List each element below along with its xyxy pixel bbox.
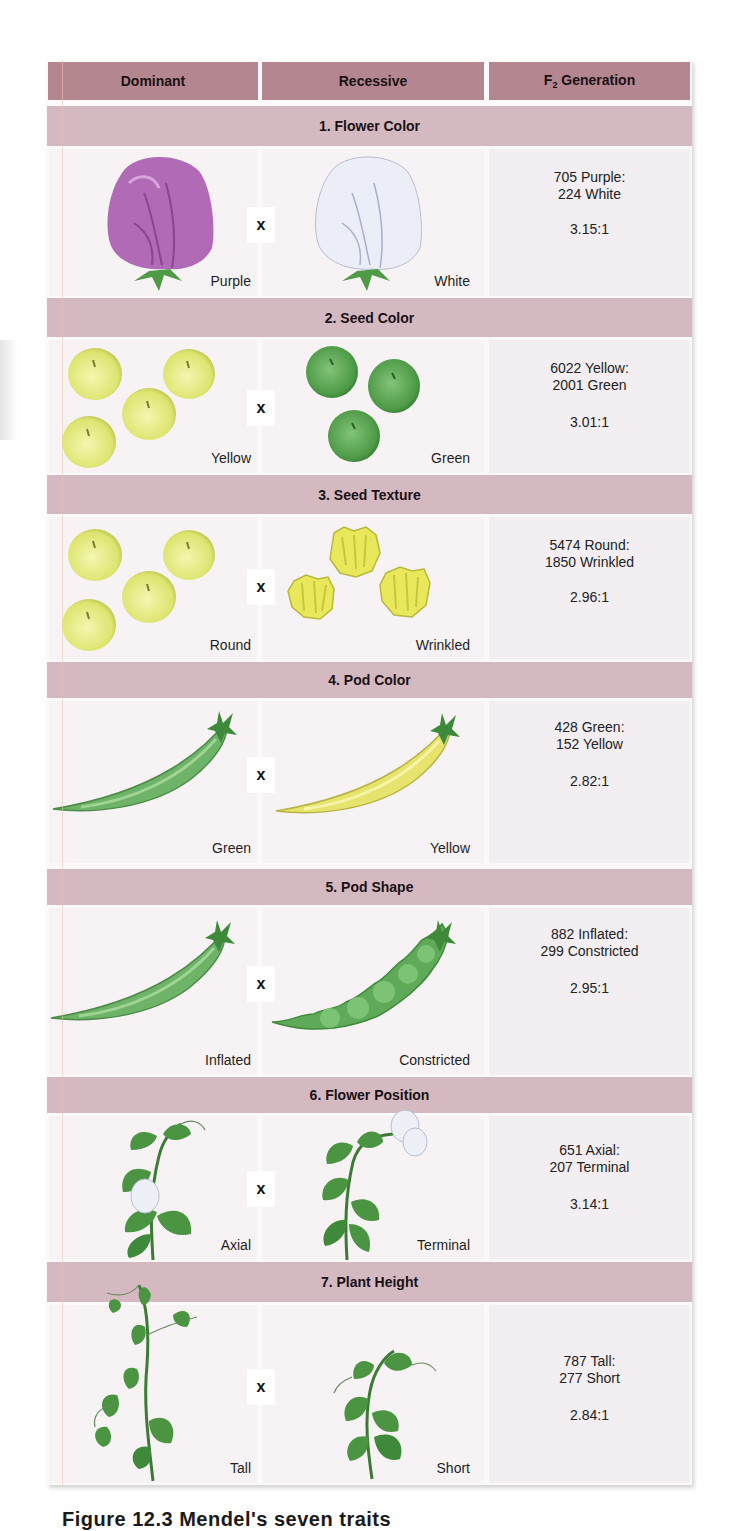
dominant-cell: Inflated: [49, 908, 257, 1075]
section-title-seed-texture: 3. Seed Texture: [47, 475, 692, 514]
dominant-cell: Tall: [49, 1305, 257, 1483]
f2-cell: 705 Purple: 224 White 3.15:1: [489, 149, 690, 296]
yellow-pod-illustration: [274, 711, 464, 826]
recessive-cell: Terminal: [262, 1116, 484, 1260]
f2-counts: 6022 Yellow: 2001 Green: [489, 360, 690, 394]
dominant-cell: Purple: [49, 149, 257, 296]
f2-recessive-count: 277 Short: [489, 1370, 690, 1387]
cross-symbol: x: [247, 569, 275, 605]
trait-row-seed-texture: Round x Wrinkled 5474 Round: 1850 Wrinkl…: [47, 517, 692, 660]
section-title-text: 3. Seed Texture: [318, 487, 420, 503]
f2-counts: 5474 Round: 1850 Wrinkled: [489, 537, 690, 571]
wrinkled-seeds-illustration: [284, 523, 434, 643]
cross-symbol: x: [247, 966, 275, 1002]
recessive-cell: Short: [262, 1305, 484, 1483]
trait-row-flower-position: Axial x Terminal 651 Axial: 207 Terminal: [47, 1116, 692, 1260]
f2-dominant-count: 787 Tall:: [489, 1353, 690, 1370]
green-pod-illustration: [51, 709, 241, 824]
f2-ratio: 2.95:1: [489, 980, 690, 996]
cross-symbol: x: [247, 1369, 275, 1405]
f2-recessive-count: 152 Yellow: [489, 736, 690, 753]
constricted-pod-illustration: [270, 918, 465, 1038]
column-header-f2-generation: F2 Generation: [489, 62, 690, 100]
recessive-label: Green: [431, 450, 470, 466]
f2-recessive-count: 1850 Wrinkled: [489, 554, 690, 571]
f2-ratio: 3.15:1: [489, 221, 690, 237]
cross-symbol: x: [247, 1171, 275, 1207]
dominant-label: Yellow: [211, 450, 251, 466]
f2-dominant-count: 5474 Round:: [489, 537, 690, 554]
cross-symbol: x: [247, 207, 275, 243]
column-header-label: Dominant: [121, 73, 186, 89]
f2-ratio: 2.82:1: [489, 773, 690, 789]
f2-cell: 6022 Yellow: 2001 Green 3.01:1: [489, 340, 690, 473]
section-title-text: 5. Pod Shape: [326, 879, 414, 895]
f2-recessive-count: 207 Terminal: [489, 1159, 690, 1176]
f2-cell: 882 Inflated: 299 Constricted 2.95:1: [489, 908, 690, 1075]
dominant-label: Axial: [221, 1237, 251, 1253]
short-plant-illustration: [322, 1341, 442, 1481]
recessive-label: White: [434, 273, 470, 289]
recessive-cell: White: [262, 149, 484, 296]
trait-row-plant-height: Tall x Short 787 Tall: 277 Short 2.84:1: [47, 1305, 692, 1483]
green-seeds-illustration: [302, 344, 432, 469]
recessive-label: Wrinkled: [416, 637, 470, 653]
dominant-label: Inflated: [205, 1052, 251, 1068]
f2-dominant-count: 882 Inflated:: [489, 926, 690, 943]
recessive-cell: Green: [262, 340, 484, 473]
section-title-text: 4. Pod Color: [328, 672, 410, 688]
recessive-label: Short: [437, 1460, 470, 1476]
section-title-text: 6. Flower Position: [310, 1087, 430, 1103]
f2-ratio: 3.14:1: [489, 1196, 690, 1212]
f2-counts: 705 Purple: 224 White: [489, 169, 690, 203]
dominant-label: Green: [212, 840, 251, 856]
f2-counts: 428 Green: 152 Yellow: [489, 719, 690, 753]
dominant-cell: Round: [49, 517, 257, 660]
f2-counts: 787 Tall: 277 Short: [489, 1353, 690, 1387]
section-title-pod-color: 4. Pod Color: [47, 662, 692, 698]
column-header-label: F2 Generation: [544, 72, 635, 90]
f2-dominant-count: 651 Axial:: [489, 1142, 690, 1159]
f2-counts: 651 Axial: 207 Terminal: [489, 1142, 690, 1176]
section-title-flower-color: 1. Flower Color: [47, 106, 692, 146]
f2-ratio: 2.84:1: [489, 1407, 690, 1423]
section-title-text: 2. Seed Color: [325, 310, 414, 326]
round-seeds-illustration: [57, 525, 227, 655]
yellow-seeds-illustration: [57, 344, 227, 469]
section-title-seed-color: 2. Seed Color: [47, 298, 692, 337]
trait-row-pod-color: Green x Yellow 428 Green: 152 Yellow 2.8…: [47, 701, 692, 863]
f2-cell: 428 Green: 152 Yellow 2.82:1: [489, 701, 690, 863]
tall-plant-illustration: [77, 1275, 217, 1483]
f2-dominant-count: 705 Purple:: [489, 169, 690, 186]
f2-dominant-count: 6022 Yellow:: [489, 360, 690, 377]
white-flower-illustration: [312, 153, 427, 293]
f2-ratio: 2.96:1: [489, 589, 690, 605]
section-title-pod-shape: 5. Pod Shape: [47, 869, 692, 905]
f2-recessive-count: 299 Constricted: [489, 943, 690, 960]
f2-ratio: 3.01:1: [489, 414, 690, 430]
mendel-traits-table: Dominant Recessive F2 Generation 1. Flow…: [47, 60, 692, 1485]
cross-symbol: x: [247, 390, 275, 426]
f2-cell: 651 Axial: 207 Terminal 3.14:1: [489, 1116, 690, 1260]
dominant-cell: Axial: [49, 1116, 257, 1260]
table-edge-line: [62, 60, 63, 1485]
recessive-label: Constricted: [399, 1052, 470, 1068]
recessive-cell: Wrinkled: [262, 517, 484, 660]
f2-recessive-count: 2001 Green: [489, 377, 690, 394]
trait-row-flower-color: Purple x White 705 Purple: 224 White 3.1…: [47, 149, 692, 296]
purple-flower-illustration: [104, 153, 219, 293]
column-header-recessive: Recessive: [262, 62, 484, 100]
recessive-cell: Constricted: [262, 908, 484, 1075]
column-header-dominant: Dominant: [48, 62, 258, 100]
dominant-cell: Green: [49, 701, 257, 863]
cross-symbol: x: [247, 757, 275, 793]
dominant-cell: Yellow: [49, 340, 257, 473]
page-shadow: [0, 340, 18, 440]
recessive-label: Yellow: [430, 840, 470, 856]
dominant-label: Tall: [230, 1460, 251, 1476]
f2-dominant-count: 428 Green:: [489, 719, 690, 736]
dominant-label: Round: [210, 637, 251, 653]
axial-flower-plant-illustration: [101, 1116, 211, 1261]
f2-cell: 787 Tall: 277 Short 2.84:1: [489, 1305, 690, 1483]
section-title-text: 7. Plant Height: [321, 1274, 418, 1290]
